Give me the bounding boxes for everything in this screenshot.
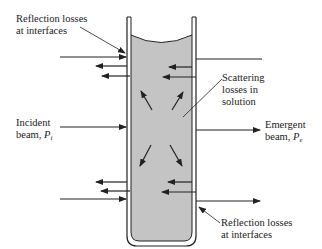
cuvette-diagram: Reflection losses at interfaces Scatteri…: [0, 0, 322, 249]
label-incident-2: beam, Pi: [16, 129, 52, 142]
label-reflection-bottom-1: Reflection losses: [221, 217, 292, 228]
label-scattering-2: losses in: [222, 84, 259, 95]
label-emergent-1: Emergent: [265, 119, 306, 130]
label-reflection-top-1: Reflection losses: [16, 13, 87, 24]
leader-reflection-bottom: [199, 207, 220, 223]
label-emergent-2: beam, Pe: [265, 131, 303, 144]
label-incident-1: Incident: [16, 117, 50, 128]
label-scattering-1: Scattering: [222, 72, 265, 83]
label-scattering-3: solution: [222, 96, 257, 107]
leader-reflection-top: [80, 27, 125, 53]
label-reflection-top-2: at interfaces: [16, 25, 67, 36]
solution: [131, 35, 192, 241]
label-reflection-bottom-2: at interfaces: [221, 229, 272, 240]
